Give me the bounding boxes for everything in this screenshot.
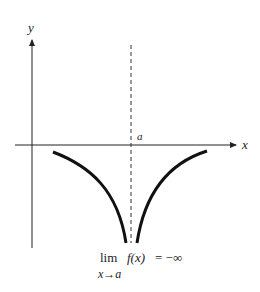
x-axis-label: x xyxy=(242,138,248,151)
limit-lim: lim xyxy=(100,251,117,264)
limit-function: f(x) xyxy=(127,251,145,264)
asymptote-label: a xyxy=(137,131,143,142)
limit-value: = −∞ xyxy=(155,251,182,264)
right-curve xyxy=(137,151,207,243)
left-curve xyxy=(53,152,126,243)
y-axis-label: y xyxy=(28,21,34,34)
limit-subscript: x→a xyxy=(98,268,121,280)
diagram-canvas xyxy=(0,0,260,292)
